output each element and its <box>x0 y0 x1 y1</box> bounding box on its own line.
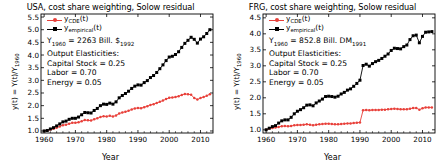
y-tick-label: 4.5 <box>28 38 39 47</box>
y-tick-label: 4.5 <box>250 13 261 22</box>
x-tick-label: 1970 <box>287 135 307 144</box>
x-axis-label-frg: Year <box>222 153 443 162</box>
figure-two-panel-chart: USA, cost share weighting, Solow residua… <box>0 0 443 162</box>
x-tick-label: 1960 <box>34 135 54 144</box>
annotation-line-2: Capital Stock = 0.25 <box>47 59 134 69</box>
legend-label-empirical: yempirical(t) <box>286 23 324 36</box>
annotation-line-0: Y1960 = 852.8 Bill. DM1991 <box>269 36 366 49</box>
y-tick-label: 1.5 <box>250 109 261 118</box>
annotation-line-1: Output Elasticities: <box>269 49 366 59</box>
annotation-line-1: Output Elasticities: <box>47 49 134 59</box>
y-tick-label: 4.0 <box>250 29 261 38</box>
y-tick-label: 1.0 <box>250 125 261 134</box>
annotation-line-3: Labor = 0.70 <box>269 68 366 78</box>
panel-usa: USA, cost share weighting, Solow residua… <box>0 0 221 162</box>
legend-usa: yCDE(t)yempirical(t) <box>47 16 102 34</box>
x-tick-label: 2010 <box>412 135 432 144</box>
x-tick-label: 1980 <box>319 135 339 144</box>
y-tick-label: 2.0 <box>250 93 261 102</box>
x-axis-label-usa: Year <box>0 153 221 162</box>
y-tick-label: 2.0 <box>28 101 39 110</box>
y-tick-label: 2.5 <box>250 77 261 86</box>
x-tick-label: 1970 <box>65 135 85 144</box>
x-tick-label: 2000 <box>159 135 179 144</box>
annotation-line-2: Capital Stock = 0.25 <box>269 59 366 69</box>
annotation-line-3: Labor = 0.70 <box>47 68 134 78</box>
y-tick-label: 3.0 <box>250 61 261 70</box>
y-tick-label: 1.5 <box>28 114 39 123</box>
legend-key-empirical-icon <box>269 25 284 34</box>
legend-item-empirical: yempirical(t) <box>269 25 324 34</box>
x-tick-label: 2010 <box>190 135 210 144</box>
y-axis-label-usa: y(t) = Y(t)/Y1960 <box>10 53 20 110</box>
y-tick-label: 5.0 <box>28 25 39 34</box>
x-tick-label: 1960 <box>256 135 276 144</box>
legend-key-cde-icon <box>47 16 62 25</box>
y-tick-label: 2.5 <box>28 88 39 97</box>
annotation-line-4: Energy = 0.05 <box>47 78 134 88</box>
annotation-block-frg: Y1960 = 852.8 Bill. DM1991Output Elastic… <box>269 36 366 87</box>
legend-key-cde-icon <box>269 16 284 25</box>
x-tick-label: 1990 <box>350 135 370 144</box>
y-axis-label-frg: y(t) = Y(t)/Y1960 <box>232 53 242 110</box>
panel-frg: FRG, cost share weighting, Solow residua… <box>222 0 443 162</box>
y-tick-label: 5.5 <box>28 13 39 22</box>
y-tick-label: 3.0 <box>28 76 39 85</box>
legend-label-empirical: yempirical(t) <box>64 23 102 36</box>
x-tick-label: 2000 <box>381 135 401 144</box>
annotation-line-0: Y1960 = 2263 Bill. $1992 <box>47 36 134 49</box>
y-tick-label: 3.5 <box>28 63 39 72</box>
y-tick-label: 4.0 <box>28 51 39 60</box>
annotation-block-usa: Y1960 = 2263 Bill. $1992Output Elasticit… <box>47 36 134 87</box>
legend-item-empirical: yempirical(t) <box>47 25 102 34</box>
annotation-line-4: Energy = 0.05 <box>269 78 366 88</box>
legend-frg: yCDE(t)yempirical(t) <box>269 16 324 34</box>
x-tick-label: 1990 <box>128 135 148 144</box>
legend-key-empirical-icon <box>47 25 62 34</box>
x-tick-label: 1980 <box>97 135 117 144</box>
y-tick-label: 3.5 <box>250 45 261 54</box>
